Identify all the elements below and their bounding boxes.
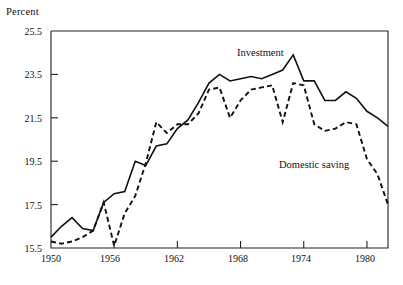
y-tick-label-21-5: 21.5: [8, 113, 42, 124]
x-tick-label-1980: 1980: [345, 253, 385, 264]
chart-figure: Percent 25.5 23.5 21.5 19.5 17.5 15.5 19…: [0, 0, 403, 285]
y-tick-label-17-5: 17.5: [8, 200, 42, 211]
x-tick-label-1950: 1950: [31, 253, 71, 264]
x-tick-label-1956: 1956: [90, 253, 130, 264]
x-tick-label-1974: 1974: [281, 253, 321, 264]
x-tick-label-1962: 1962: [154, 253, 194, 264]
x-axis-ticks: [114, 241, 367, 248]
y-tick-label-19-5: 19.5: [8, 156, 42, 167]
plot-canvas: [0, 0, 403, 285]
source-note: [6, 277, 403, 285]
y-tick-label-23-5: 23.5: [8, 69, 42, 80]
y-axis-ticks: [51, 74, 58, 204]
plot-frame: [51, 31, 388, 248]
y-tick-label-25-5: 25.5: [8, 26, 42, 37]
y-axis-title: Percent: [6, 6, 39, 17]
series-label-investment: Investment: [237, 47, 284, 58]
series-label-domestic-saving: Domestic saving: [279, 159, 349, 170]
x-tick-label-1968: 1968: [218, 253, 258, 264]
